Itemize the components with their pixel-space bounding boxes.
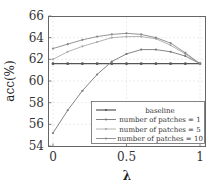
x-tick-label: 0.5 bbox=[117, 150, 136, 164]
data-point bbox=[155, 62, 158, 65]
data-point bbox=[52, 132, 54, 134]
data-point bbox=[125, 32, 127, 34]
legend-entry: number of patches = 1 bbox=[119, 116, 200, 124]
data-point bbox=[125, 62, 128, 65]
data-point bbox=[111, 60, 113, 62]
data-point bbox=[81, 90, 83, 92]
data-point bbox=[96, 73, 98, 75]
data-point bbox=[96, 41, 98, 43]
y-axis-label: acc(%) bbox=[3, 60, 17, 101]
y-tick-label: 60 bbox=[29, 74, 44, 88]
legend-entry: baseline bbox=[145, 107, 175, 115]
data-point bbox=[184, 62, 187, 65]
data-point bbox=[170, 44, 172, 46]
data-point bbox=[52, 47, 54, 49]
data-point bbox=[199, 63, 201, 65]
data-point bbox=[67, 43, 69, 45]
legend-entry: number of patches = 5 bbox=[119, 126, 200, 134]
data-point bbox=[125, 53, 127, 55]
legend: baselinenumber of patches = 1number of p… bbox=[92, 102, 205, 144]
data-point bbox=[81, 45, 83, 47]
data-point bbox=[169, 62, 172, 65]
data-point bbox=[81, 39, 83, 41]
y-tick-label: 62 bbox=[29, 52, 44, 66]
x-axis-label: λ bbox=[123, 169, 131, 183]
y-tick-label: 56 bbox=[29, 117, 44, 131]
series-0 bbox=[52, 62, 202, 65]
y-tick-label: 66 bbox=[29, 9, 44, 23]
y-tick-label: 58 bbox=[29, 96, 44, 110]
data-point bbox=[67, 51, 69, 53]
x-tick-label: 1 bbox=[196, 150, 204, 164]
data-point bbox=[67, 109, 69, 111]
data-point bbox=[184, 52, 186, 54]
data-point bbox=[111, 37, 113, 39]
data-point bbox=[52, 58, 54, 60]
data-point bbox=[155, 37, 157, 39]
data-point bbox=[140, 62, 143, 65]
data-point bbox=[170, 42, 172, 44]
line-chart: 54565860626466 00.51 acc(%) λ baselinenu… bbox=[0, 0, 219, 187]
data-point bbox=[140, 35, 142, 37]
y-tick-label: 54 bbox=[29, 139, 45, 153]
data-point bbox=[66, 62, 69, 65]
data-point bbox=[125, 35, 127, 37]
data-point bbox=[52, 62, 55, 65]
data-point bbox=[140, 48, 142, 50]
data-point bbox=[96, 35, 98, 37]
legend-entry: number of patches = 10 bbox=[117, 135, 203, 143]
data-point bbox=[184, 55, 186, 57]
data-point bbox=[155, 48, 157, 50]
data-point bbox=[140, 33, 142, 35]
x-tick-label: 0 bbox=[49, 150, 57, 164]
data-point bbox=[96, 62, 99, 65]
data-point bbox=[170, 51, 172, 53]
y-tick-label: 64 bbox=[29, 31, 45, 45]
data-point bbox=[111, 33, 113, 35]
data-point bbox=[81, 62, 84, 65]
